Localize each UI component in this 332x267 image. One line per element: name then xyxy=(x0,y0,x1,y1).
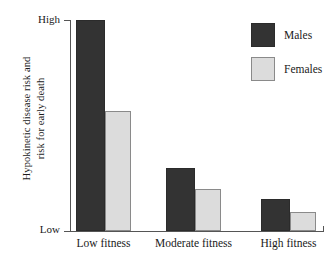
legend-item-males[interactable]: Males xyxy=(251,22,332,48)
y-axis-tick-mark-low xyxy=(64,231,70,232)
legend-label-males: Males xyxy=(284,29,312,42)
legend-item-females[interactable]: Females xyxy=(251,56,332,82)
legend-label-females: Females xyxy=(284,63,322,76)
legend-swatch-males xyxy=(251,23,275,47)
bar-chart: Hypokinetic disease risk and risk for ea… xyxy=(0,0,332,267)
bar-females-1[interactable] xyxy=(105,111,131,231)
y-axis-title-line-2: risk for early death xyxy=(34,56,48,180)
y-axis-tick-low: Low xyxy=(18,223,60,235)
y-axis-tick-mark-high xyxy=(64,20,70,21)
x-axis-label-3: High fitness xyxy=(229,236,332,250)
legend: MalesFemales xyxy=(251,22,332,90)
bar-group xyxy=(76,20,131,231)
y-axis-title: Hypokinetic disease risk and risk for ea… xyxy=(8,0,60,236)
bar-group xyxy=(166,20,221,231)
bar-males-2[interactable] xyxy=(166,168,195,231)
legend-swatch-females xyxy=(251,57,275,81)
y-axis-title-line-1: Hypokinetic disease risk and xyxy=(21,56,35,180)
y-axis-tick-high: High xyxy=(18,13,60,25)
x-axis-line xyxy=(70,231,324,232)
bar-males-3[interactable] xyxy=(261,199,290,231)
bar-females-2[interactable] xyxy=(195,189,221,231)
bar-females-3[interactable] xyxy=(290,212,316,231)
bar-males-1[interactable] xyxy=(76,20,105,231)
